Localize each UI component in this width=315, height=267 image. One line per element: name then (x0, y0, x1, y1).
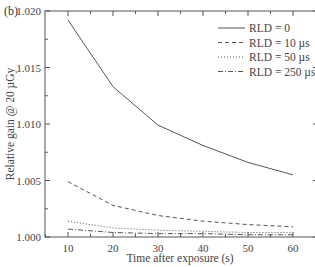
series-line-2 (68, 221, 293, 232)
legend-label: RLD = 10 µs (249, 37, 310, 50)
legend-label: RLD = 50 µs (249, 51, 310, 64)
y-tick-label: 1.015 (16, 62, 41, 74)
legend-label: RLD = 250 µs (249, 66, 315, 79)
x-tick-label: 50 (243, 242, 255, 254)
x-axis-title: Time after exposure (s) (126, 252, 233, 265)
y-tick-label: 1.005 (16, 175, 41, 187)
y-tick-label: 1.020 (16, 5, 41, 17)
x-tick-label: 20 (108, 242, 120, 254)
legend-label: RLD = 0 (249, 22, 290, 34)
y-axis-title: Relative gain @ 20 µGy (4, 68, 17, 181)
line-chart: (b) 1.0001.0051.0101.0151.020 1020304050… (0, 0, 315, 267)
x-tick-label: 10 (63, 242, 75, 254)
series-line-1 (68, 182, 293, 227)
series-line-3 (68, 229, 293, 235)
legend: RLD = 0RLD = 10 µsRLD = 50 µsRLD = 250 µ… (218, 22, 315, 79)
x-tick-label: 60 (288, 242, 300, 254)
y-tick-label: 1.000 (16, 231, 41, 243)
y-tick-label: 1.010 (16, 118, 41, 130)
